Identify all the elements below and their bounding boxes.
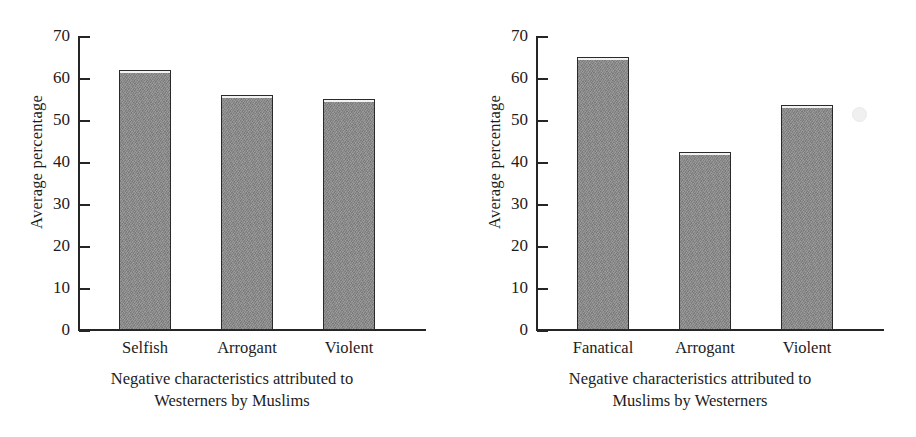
bar <box>679 152 731 331</box>
y-tick-right-2 <box>537 246 548 248</box>
y-tick-right-7 <box>537 36 548 38</box>
y-tick-label-right-6: 60 <box>468 69 528 86</box>
y-tick-label-right-1: 10 <box>468 279 528 296</box>
y-tick-label-right-2: 20 <box>468 237 528 254</box>
y-tick-label-right-4: 40 <box>468 153 528 170</box>
y-tick-label-right-3: 30 <box>468 195 528 212</box>
x-axis-label-left-line2: Westerners by Muslims <box>30 390 434 412</box>
y-tick-label-left-1: 10 <box>10 279 70 296</box>
y-tick-right-6 <box>537 78 548 80</box>
y-tick-right-3 <box>537 204 548 206</box>
bar <box>119 70 171 330</box>
y-tick-right-5 <box>537 120 548 122</box>
y-tick-left-2 <box>79 246 90 248</box>
y-tick-label-left-7: 70 <box>10 27 70 44</box>
y-tick-right-4 <box>537 162 548 164</box>
y-axis-line-left <box>78 36 80 330</box>
y-tick-left-6 <box>79 78 90 80</box>
y-tick-left-5 <box>79 120 90 122</box>
bar <box>221 95 273 330</box>
y-tick-label-left-3: 30 <box>10 195 70 212</box>
y-tick-left-0 <box>79 330 90 332</box>
scan-artifact-dot <box>852 107 867 122</box>
x-axis-label-right: Negative characteristics attributed to M… <box>488 368 892 413</box>
y-tick-label-right-5: 50 <box>468 111 528 128</box>
y-tick-label-right-0: 0 <box>468 321 528 338</box>
x-axis-label-right-line1: Negative characteristics attributed to <box>569 369 811 388</box>
figure-two-bar-charts: Average percentage 0 10 20 30 40 50 60 7… <box>0 0 916 437</box>
bar <box>577 57 629 330</box>
y-tick-right-0 <box>537 330 548 332</box>
y-tick-label-right-7: 70 <box>468 27 528 44</box>
plot-area-right: 0 10 20 30 40 50 60 70 Fanatical Arrogan… <box>536 30 886 332</box>
y-tick-label-left-2: 20 <box>10 237 70 254</box>
y-tick-label-left-0: 0 <box>10 321 70 338</box>
x-axis-label-left: Negative characteristics attributed to W… <box>30 368 434 413</box>
y-tick-right-1 <box>537 288 548 290</box>
y-tick-left-7 <box>79 36 90 38</box>
chart-panel-left: Average percentage 0 10 20 30 40 50 60 7… <box>0 0 458 437</box>
y-tick-left-4 <box>79 162 90 164</box>
y-tick-label-left-4: 40 <box>10 153 70 170</box>
x-axis-label-right-line2: Muslims by Westerners <box>488 390 892 412</box>
y-tick-label-left-5: 50 <box>10 111 70 128</box>
y-tick-label-left-6: 60 <box>10 69 70 86</box>
x-category-label: Violent <box>279 338 419 358</box>
y-axis-line-right <box>536 36 538 330</box>
plot-area-left: 0 10 20 30 40 50 60 70 Selfish Arrogant … <box>78 30 428 332</box>
bar <box>323 99 375 330</box>
bar <box>781 105 833 330</box>
chart-panel-right: Average percentage 0 10 20 30 40 50 60 7… <box>458 0 916 437</box>
y-tick-left-1 <box>79 288 90 290</box>
y-tick-left-3 <box>79 204 90 206</box>
x-category-label: Violent <box>737 338 877 358</box>
x-axis-label-left-line1: Negative characteristics attributed to <box>111 369 353 388</box>
